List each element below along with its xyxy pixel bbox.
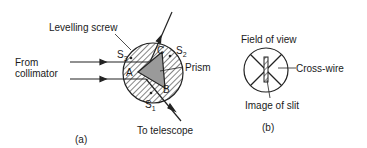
label-field-of-view: Field of view [241,34,297,45]
label-levelling-screw: Levelling screw [49,22,117,33]
label-from: From [15,57,38,68]
screw-s3-label: S3 [117,49,128,64]
caption-a: (a) [75,134,87,145]
screw-s1-label: S1 [145,99,156,114]
label-prism: Prism [185,62,211,73]
label-to-telescope: To telescope [137,125,193,136]
label-cross-wire: Cross-wire [296,63,344,74]
label-collimator: collimator [15,68,58,79]
vertex-c-label: C [157,45,164,56]
slit-image [264,57,268,82]
vertex-b-label: B [163,84,170,95]
leader-lines-b [267,68,296,98]
label-image-of-slit: Image of slit [245,100,299,111]
vertex-a-label: A [126,67,133,78]
screw-s2-label: S2 [176,45,187,60]
caption-b: (b) [262,122,274,133]
